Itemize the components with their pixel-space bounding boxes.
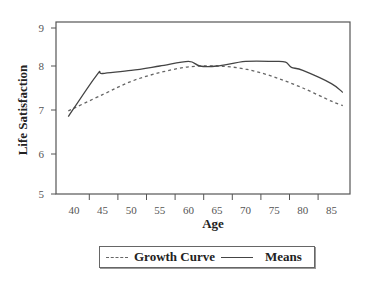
series-layer [68, 61, 343, 117]
x-axis: 40455055606570758085 [69, 194, 338, 216]
line-chart: 56789 40455055606570758085 Life Satisfac… [0, 0, 371, 287]
legend: Growth Curve Means [99, 246, 315, 268]
y-axis-title: Life Satisfaction [15, 64, 30, 155]
x-tick-label: 85 [326, 204, 338, 216]
y-tick-label: 7 [39, 104, 45, 116]
y-axis: 56789 [39, 22, 57, 200]
x-tick-label: 70 [240, 204, 252, 216]
plot-frame [56, 22, 350, 194]
x-tick-label: 75 [269, 204, 281, 216]
x-tick-label: 60 [183, 204, 195, 216]
x-tick-label: 80 [297, 204, 309, 216]
y-tick-label: 8 [39, 60, 45, 72]
x-tick-label: 65 [212, 204, 224, 216]
dashed-line-icon [106, 257, 128, 258]
y-tick-label: 9 [39, 22, 45, 34]
means-line [68, 61, 343, 117]
x-tick-label: 50 [126, 204, 138, 216]
x-tick-label: 55 [154, 204, 166, 216]
x-tick-label: 40 [69, 204, 81, 216]
y-tick-label: 5 [39, 188, 45, 200]
legend-label-growth-curve: Growth Curve [134, 249, 215, 265]
legend-label-means: Means [265, 249, 302, 265]
x-tick-label: 45 [97, 204, 109, 216]
solid-line-icon [221, 257, 253, 258]
x-axis-title: Age [202, 216, 224, 231]
y-tick-label: 6 [39, 148, 45, 160]
